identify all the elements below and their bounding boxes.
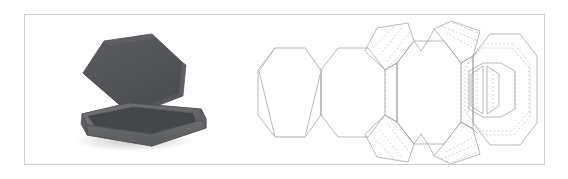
hexagon-panel-1-outline xyxy=(258,48,321,137)
flap-tl-fold-2 xyxy=(380,26,403,55)
flap-tr-fold-3 xyxy=(453,23,478,33)
corner-glue-flap-top-left xyxy=(365,23,414,70)
hexagon-panel-1 xyxy=(259,48,321,137)
box-photo-svg xyxy=(25,15,245,164)
bottom-center-notch xyxy=(414,134,434,156)
side-wall-strip-left xyxy=(385,63,397,122)
flap-bl-fold-3 xyxy=(373,137,396,161)
flap-tr-fold-1 xyxy=(446,33,472,47)
dieline-svg xyxy=(225,15,546,164)
figure-panel: Hexagonal gift box — product photo and d… xyxy=(24,14,545,165)
flap-br-fold-1 xyxy=(446,138,472,152)
hexagon-panel-1-cut xyxy=(258,48,321,137)
flap-tl-fold-3 xyxy=(373,24,396,48)
top-center-notch xyxy=(414,29,434,51)
hexagon-panel-3-cut xyxy=(397,41,461,144)
flap-tl-fold-1 xyxy=(387,32,410,62)
hexagonal-box-dieline xyxy=(225,15,546,164)
flap-bl-fold-1 xyxy=(387,123,410,153)
flap-bl-fold-2 xyxy=(380,130,403,159)
hexagonal-box-photo xyxy=(25,15,245,164)
corner-glue-flap-bottom-left xyxy=(365,115,414,162)
flap-br-fold-3 xyxy=(453,152,478,162)
inner-panel-fold-echo xyxy=(465,48,529,131)
hexagon-panel-4-cut xyxy=(473,34,537,145)
